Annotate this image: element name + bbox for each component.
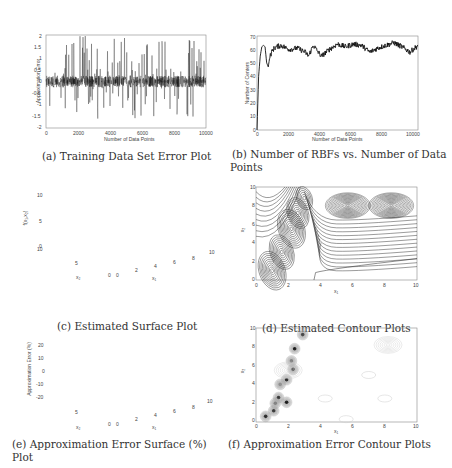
- xtick: 0: [256, 131, 259, 137]
- ytick: 6: [252, 362, 255, 368]
- ytick: 30: [250, 87, 256, 93]
- ytick: 10: [250, 325, 256, 331]
- ytick: 10: [250, 184, 256, 190]
- caption-b-line2: Points: [230, 161, 263, 174]
- panel-b-rbf-count: 70 60 50 40 30 20 10 0 0 2000 4000 6000 …: [226, 0, 452, 175]
- x1-axis-label: x₁: [152, 275, 156, 281]
- ytick: 2: [39, 33, 42, 39]
- ytick: 5: [75, 409, 78, 415]
- xtick: 2: [287, 282, 290, 288]
- xtick: 4: [319, 282, 322, 288]
- ytick: 40: [250, 73, 256, 79]
- xtick: 0: [116, 272, 119, 278]
- ytick: 10: [37, 246, 43, 252]
- panel-a-training-error: 2 1.5 1 0.5 0 -0.5 -1 -1.5 -2 0 2000 400…: [0, 0, 226, 155]
- z-axis-label: Approximation Error (%): [26, 342, 32, 396]
- ytick: -2: [37, 124, 41, 130]
- xtick: 10: [413, 282, 419, 288]
- ytick: 8: [252, 343, 255, 349]
- x2-axis-label: x₂: [76, 274, 80, 280]
- x2-axis-label: x₂: [239, 228, 245, 232]
- x2-axis-label: x₂: [76, 424, 80, 430]
- xtick: 2: [135, 416, 138, 422]
- xtick: 10000: [406, 131, 420, 137]
- ytick: 50: [250, 60, 256, 66]
- xtick: 8: [383, 423, 386, 429]
- ztick: -10: [36, 381, 43, 387]
- ytick: 10: [250, 113, 256, 119]
- caption-b-line1: (b) Number of RBFs vs. Number of Data: [232, 148, 447, 161]
- ytick: 0: [108, 272, 111, 278]
- x1-axis-label: x₁: [152, 424, 156, 430]
- ztick: 20: [38, 342, 44, 348]
- xtick: 10000: [199, 130, 213, 136]
- ytick: 2: [252, 399, 255, 405]
- x1-axis-label: x₁: [334, 428, 338, 434]
- caption-e: (e) Approximation Error Surface (%) Plot: [12, 438, 226, 464]
- ytick: -1.5: [32, 113, 41, 119]
- y-axis-label: Approximation Error: [35, 51, 41, 111]
- xtick: 6: [173, 408, 176, 414]
- xtick: 4: [154, 263, 157, 269]
- xtick: 10: [209, 249, 215, 255]
- ytick: 6: [252, 221, 255, 227]
- xtick: 10: [413, 423, 419, 429]
- xtick: 0: [255, 423, 258, 429]
- xtick: 8000: [169, 130, 180, 136]
- xtick: 2000: [283, 131, 294, 137]
- ztick: 10: [37, 192, 43, 198]
- ytick: 4: [252, 380, 255, 386]
- ytick: 2: [252, 258, 255, 264]
- ytick: 1.5: [34, 44, 41, 50]
- xtick: 4: [319, 423, 322, 429]
- xtick: 0: [116, 421, 119, 427]
- xtick: 2000: [73, 130, 84, 136]
- ztick: 10: [38, 355, 44, 361]
- ztick: -20: [36, 394, 43, 400]
- ytick: 20: [250, 100, 256, 106]
- xtick: 8: [192, 255, 195, 261]
- panel-d-estimated-contour: 10 8 6 4 2 0 0 2 4 6 8 10 x₁ x₂ (d) Esti…: [226, 175, 452, 310]
- panel-c-estimated-surface: 10 5 0 10 5 0 0 2 4 6 8 10 x₂ x₁ f(x₁,x₂…: [0, 170, 226, 310]
- ytick: 60: [250, 47, 256, 53]
- x2-axis-label: x₂: [239, 369, 245, 373]
- ztick: 5: [39, 218, 42, 224]
- xtick: 8: [383, 282, 386, 288]
- ytick: 4: [252, 239, 255, 245]
- ztick: 0: [42, 368, 45, 374]
- ytick: 5: [75, 260, 78, 266]
- x-axis-label: Number of Data Points: [104, 136, 155, 142]
- panel-f-error-contour: 10 8 6 4 2 0 0 2 4 6 8 10 x₁ x₂ (f) Appr…: [226, 310, 452, 468]
- surface-plot-canvas: [0, 170, 226, 310]
- contour-plot-canvas: [226, 175, 452, 310]
- xtick: 8000: [376, 131, 387, 137]
- panel-e-error-surface: 20 10 0 -10 -20 5 0 0 2 4 6 8 10 x₂ x₁ A…: [0, 310, 226, 468]
- xtick: 6: [351, 423, 354, 429]
- z-axis-label: f(x₁,x₂): [22, 211, 28, 226]
- x-axis-label: Number of Data Points: [312, 136, 363, 142]
- xtick: 10: [207, 398, 213, 404]
- xtick: 6: [173, 259, 176, 265]
- x1-axis-label: x₁: [334, 288, 338, 294]
- xtick: 0: [45, 130, 48, 136]
- caption-f: (f) Approximation Error Contour Plots: [228, 438, 431, 451]
- ytick: 0: [108, 421, 111, 427]
- xtick: 0: [255, 282, 258, 288]
- xtick: 8: [192, 404, 195, 410]
- caption-a: (a) Training Data Set Error Plot: [42, 150, 211, 163]
- ytick: 70: [250, 34, 256, 40]
- ytick: 8: [252, 202, 255, 208]
- xtick: 6: [351, 282, 354, 288]
- xtick: 4: [154, 412, 157, 418]
- y-axis-label: Number of Centers: [244, 55, 250, 111]
- xtick: 2: [287, 423, 290, 429]
- xtick: 2: [135, 267, 138, 273]
